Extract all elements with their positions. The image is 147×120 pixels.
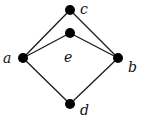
node-c xyxy=(65,5,75,15)
edge-c-b xyxy=(70,10,118,58)
edge-a-c xyxy=(23,10,70,58)
node-label-a: a xyxy=(3,50,11,66)
edge-e-b xyxy=(70,33,118,58)
node-d xyxy=(65,99,75,109)
node-a xyxy=(18,53,28,63)
node-label-d: d xyxy=(80,102,89,118)
edge-d-b xyxy=(70,58,118,104)
edge-a-d xyxy=(23,58,70,104)
hasse-diagram: ceabd xyxy=(0,0,147,120)
node-b xyxy=(113,53,123,63)
node-label-c: c xyxy=(80,1,88,17)
edge-a-e xyxy=(23,33,70,58)
node-label-e: e xyxy=(64,49,72,65)
node-e xyxy=(65,28,75,38)
node-label-b: b xyxy=(128,59,137,75)
